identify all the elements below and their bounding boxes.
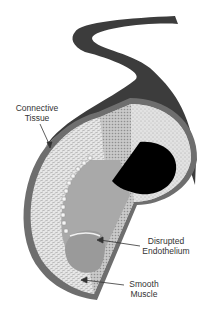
- label-line: Muscle: [124, 289, 164, 299]
- label-line: Smooth: [124, 279, 164, 289]
- artery-diagram: [0, 0, 209, 320]
- label-smooth-muscle: Smooth Muscle: [124, 279, 164, 299]
- label-disrupted-endothelium: Disrupted Endothelium: [138, 236, 194, 256]
- label-line: Disrupted: [138, 236, 194, 246]
- label-line: Endothelium: [138, 246, 194, 256]
- label-connective-tissue: Connective Tissue: [12, 103, 62, 123]
- label-line: Tissue: [12, 113, 62, 123]
- label-line: Connective: [12, 103, 62, 113]
